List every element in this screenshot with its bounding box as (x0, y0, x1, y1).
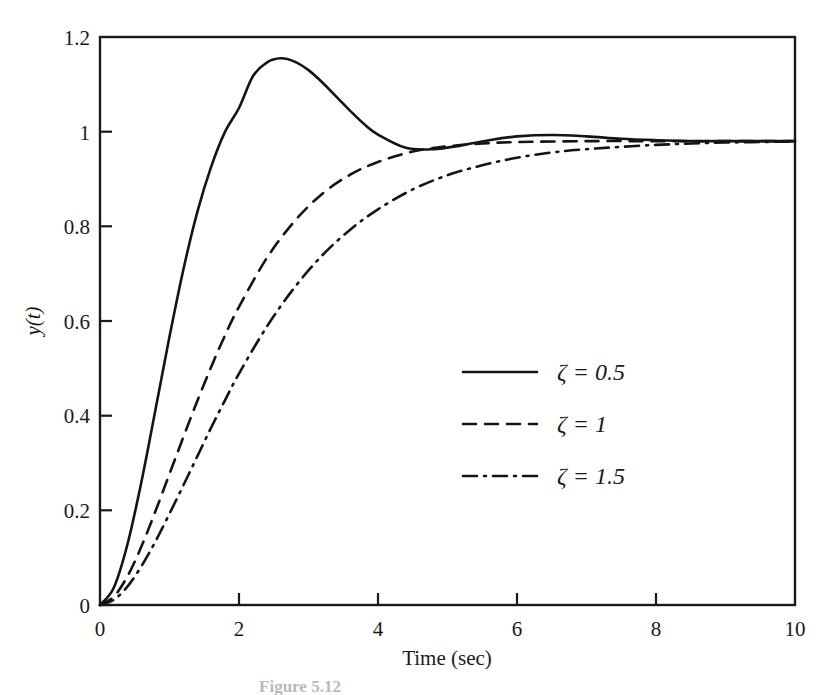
x-tick-label-4: 4 (373, 617, 384, 641)
figure-container: 0 0.2 0.4 0.6 0.8 1 1.2 0 2 4 6 8 10 Tim… (0, 0, 823, 695)
data-curves (100, 58, 795, 605)
y-tick-label-1: 1 (80, 121, 91, 145)
y-axis-title: y(t) (21, 306, 45, 337)
y-tick-label-0-2: 0.2 (64, 499, 90, 523)
y-tick-label-0: 0 (80, 594, 91, 618)
x-tick-label-8: 8 (651, 617, 662, 641)
legend-label-zeta-1-5: ζ = 1.5 (557, 463, 625, 489)
legend-label-zeta-0-5: ζ = 0.5 (557, 359, 625, 385)
x-axis-ticks (239, 593, 656, 605)
y-tick-label-0-8: 0.8 (64, 215, 90, 239)
figure-caption: Figure 5.12 (259, 677, 341, 695)
step-response-chart: 0 0.2 0.4 0.6 0.8 1 1.2 0 2 4 6 8 10 Tim… (0, 0, 823, 695)
y-tick-label-0-6: 0.6 (64, 310, 90, 334)
curve-zeta-1 (100, 141, 795, 605)
x-axis-title: Time (sec) (402, 646, 492, 670)
curve-zeta-0-5 (100, 58, 795, 605)
x-tick-label-0: 0 (95, 617, 106, 641)
x-tick-label-2: 2 (234, 617, 245, 641)
plot-frame (100, 37, 795, 605)
y-tick-label-1-2: 1.2 (64, 26, 90, 50)
y-axis-ticks (100, 132, 112, 605)
legend: ζ = 0.5 ζ = 1 ζ = 1.5 (463, 359, 625, 489)
y-tick-label-0-4: 0.4 (64, 404, 91, 428)
x-tick-label-10: 10 (785, 617, 806, 641)
legend-label-zeta-1: ζ = 1 (557, 411, 607, 437)
x-tick-label-6: 6 (512, 617, 523, 641)
curve-zeta-1-5 (100, 142, 795, 605)
